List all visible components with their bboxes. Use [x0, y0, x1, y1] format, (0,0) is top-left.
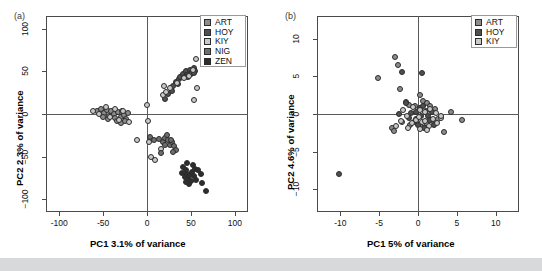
data-point [405, 125, 411, 131]
x-tick-mark [496, 212, 497, 216]
data-point [198, 171, 204, 177]
x-tick-label: 10 [476, 218, 516, 228]
x-tick-label: -50 [83, 218, 123, 228]
x-tick-label: -5 [359, 218, 399, 228]
y-tick-label: 0 [19, 99, 31, 129]
x-tick-mark [59, 212, 60, 216]
data-point [424, 127, 430, 133]
x-axis-title-b: PC1 5% of variance [367, 238, 455, 249]
legend-label: ART [486, 18, 503, 27]
x-tick-mark [103, 212, 104, 216]
data-point [399, 69, 405, 75]
legend-swatch-icon [204, 58, 211, 65]
legend-item-kiy[interactable]: KIY [475, 37, 513, 47]
data-point [190, 162, 196, 168]
data-point [417, 126, 423, 132]
data-point [126, 119, 132, 125]
legend-swatch-icon [204, 29, 211, 36]
data-point [191, 97, 197, 103]
legend-microsatellites: ARTHOYKIY [471, 15, 517, 48]
y-tick-label: 0 [290, 99, 302, 129]
x-tick-label: 50 [171, 218, 211, 228]
panel-radseq: (a) RADseq PC2 2.3% of variance PC1 3.1%… [0, 0, 271, 258]
y-tick-mark [42, 114, 46, 115]
data-point [434, 120, 440, 126]
legend-radseq: ARTHOYKIYNIGZEN [200, 15, 246, 67]
x-tick-label: 0 [398, 218, 438, 228]
legend-item-zen[interactable]: ZEN [204, 56, 242, 66]
data-point [184, 160, 190, 166]
legend-swatch-icon [475, 19, 482, 26]
legend-swatch-icon [475, 38, 482, 45]
x-tick-label: 0 [127, 218, 167, 228]
data-point [441, 129, 447, 135]
y-tick-mark [313, 114, 317, 115]
legend-label: NIG [215, 47, 230, 56]
y-tick-mark [313, 39, 317, 40]
y-tick-label: −10 [290, 174, 302, 204]
legend-label: KIY [486, 37, 500, 46]
panel-microsatellites: (b) Microsatellites PC2 4.6% of variance… [271, 0, 542, 258]
legend-swatch-icon [204, 19, 211, 26]
y-tick-mark [42, 157, 46, 158]
data-point [179, 170, 185, 176]
y-tick-mark [313, 189, 317, 190]
data-point [134, 137, 140, 143]
data-point [161, 83, 167, 89]
data-point [162, 142, 168, 148]
y-tick-mark [313, 76, 317, 77]
zero-line-vertical [147, 16, 148, 212]
legend-item-nig[interactable]: NIG [204, 47, 242, 57]
x-axis-title-a: PC1 3.1% of variance [90, 238, 186, 249]
data-point [152, 157, 158, 163]
data-point [395, 62, 401, 68]
data-point [144, 102, 150, 108]
legend-swatch-icon [204, 38, 211, 45]
y-tick-mark [42, 29, 46, 30]
y-tick-label: 100 [19, 14, 31, 44]
x-tick-mark [235, 212, 236, 216]
y-tick-label: −50 [19, 142, 31, 172]
data-point [183, 179, 189, 185]
y-tick-label: −100 [19, 184, 31, 214]
data-point [167, 85, 173, 91]
x-tick-mark [457, 212, 458, 216]
data-point [103, 104, 109, 110]
figure-canvas: (a) RADseq PC2 2.3% of variance PC1 3.1%… [0, 0, 542, 258]
data-point [168, 137, 174, 143]
data-point [398, 118, 404, 124]
legend-swatch-icon [204, 48, 211, 55]
data-point [90, 108, 96, 114]
x-tick-mark [191, 212, 192, 216]
x-tick-mark [147, 212, 148, 216]
y-tick-label: −5 [290, 137, 302, 167]
x-tick-label: -100 [39, 218, 79, 228]
x-tick-mark [379, 212, 380, 216]
data-point [145, 118, 151, 124]
y-tick-mark [313, 152, 317, 153]
data-point [203, 188, 209, 194]
data-point [193, 56, 199, 62]
x-tick-mark [340, 212, 341, 216]
data-point [96, 111, 102, 117]
data-point [112, 106, 118, 112]
x-tick-label: 5 [437, 218, 477, 228]
panel-letter-b: (b) [285, 11, 296, 21]
data-point [186, 73, 192, 79]
legend-swatch-icon [475, 29, 482, 36]
y-tick-mark [42, 71, 46, 72]
legend-label: ZEN [215, 57, 232, 66]
y-tick-label: 50 [19, 56, 31, 86]
data-point [190, 67, 196, 73]
data-point [116, 117, 122, 123]
legend-label: ART [215, 18, 232, 27]
x-tick-label: -10 [320, 218, 360, 228]
x-tick-mark [418, 212, 419, 216]
y-tick-mark [42, 199, 46, 200]
y-tick-label: 5 [290, 61, 302, 91]
x-tick-label: 100 [215, 218, 255, 228]
y-tick-label: 10 [290, 24, 302, 54]
